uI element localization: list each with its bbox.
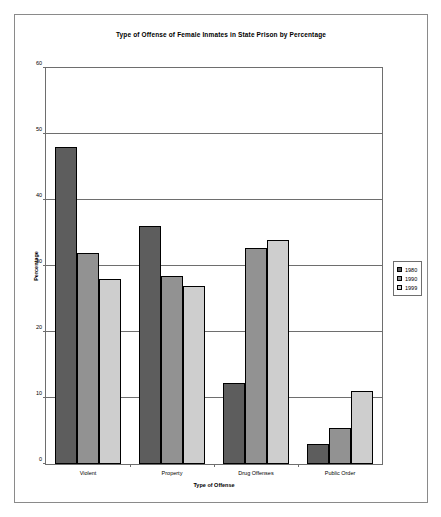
legend-label: 1980 (405, 267, 417, 273)
bar-group (139, 68, 205, 464)
legend-item[interactable]: 1990 (397, 274, 417, 283)
x-tick-label: Public Order (325, 470, 356, 476)
bar[interactable] (183, 286, 205, 464)
x-tick-mark (298, 464, 299, 467)
bar-group (223, 68, 289, 464)
legend-swatch (397, 267, 402, 272)
bar-group (55, 68, 121, 464)
plot-area: Percentage 0102030405060 ViolentProperty… (45, 67, 383, 465)
y-tick-label: 0 (39, 456, 42, 462)
y-tick-label: 60 (36, 60, 42, 66)
bar[interactable] (77, 253, 99, 464)
bar[interactable] (351, 391, 373, 464)
legend-swatch (397, 285, 402, 290)
y-tick-label: 10 (36, 390, 42, 396)
bar[interactable] (307, 444, 329, 464)
x-tick-mark (214, 464, 215, 467)
bar[interactable] (161, 276, 183, 464)
legend-label: 1999 (405, 285, 417, 291)
chart-figure: Type of Offense of Female Inmates in Sta… (14, 14, 428, 503)
y-tick-label: 20 (36, 324, 42, 330)
x-tick-mark (130, 464, 131, 467)
y-tick-label: 40 (36, 192, 42, 198)
legend-swatch (397, 276, 402, 281)
bar[interactable] (55, 147, 77, 464)
bar[interactable] (223, 383, 245, 464)
legend-item[interactable]: 1980 (397, 265, 417, 274)
chart-title: Type of Offense of Female Inmates in Sta… (15, 31, 427, 38)
bar[interactable] (139, 226, 161, 464)
x-tick-label: Drug Offenses (238, 470, 273, 476)
bar[interactable] (99, 279, 121, 464)
y-tick-label: 30 (36, 258, 42, 264)
x-axis-title: Type of Offense (46, 482, 382, 488)
chart-legend: 198019901999 (393, 261, 422, 296)
bar[interactable] (245, 248, 267, 464)
x-tick-label: Property (162, 470, 183, 476)
y-tick-label: 50 (36, 126, 42, 132)
bar-series-container (46, 68, 382, 464)
bar-group (307, 68, 373, 464)
y-axis-title: Percentage (33, 251, 39, 281)
x-tick-label: Violent (80, 470, 97, 476)
bar[interactable] (329, 428, 351, 464)
legend-label: 1990 (405, 276, 417, 282)
bar[interactable] (267, 240, 289, 464)
legend-item[interactable]: 1999 (397, 283, 417, 292)
